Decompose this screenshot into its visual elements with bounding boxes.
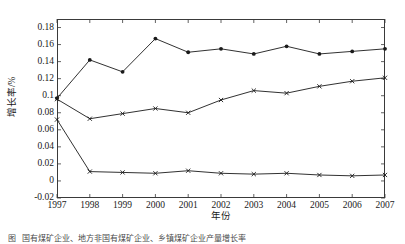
x-tick-label: 2002 — [212, 201, 231, 211]
x-tick-label: 2007 — [376, 201, 395, 211]
x-tick-label: 1999 — [113, 201, 132, 211]
data-point-marker — [252, 52, 256, 56]
data-series — [55, 117, 387, 177]
data-point-marker — [55, 117, 59, 121]
caption-text: 国有煤矿企业、地方非国有煤矿企业、乡镇煤矿企业产量增长率 — [22, 234, 246, 243]
data-point-marker — [383, 47, 387, 51]
x-tick-label: 2001 — [179, 201, 198, 211]
x-tick-label: 2003 — [244, 201, 263, 211]
data-point-marker — [285, 44, 289, 48]
data-series — [55, 37, 387, 100]
x-axis-title: 年份 — [57, 212, 385, 222]
axis-tick-marks — [57, 19, 385, 198]
caption-label: 图 — [8, 234, 16, 243]
series-line — [57, 120, 385, 176]
series-line — [57, 78, 385, 119]
data-point-marker — [219, 47, 223, 51]
x-tick-label: 1997 — [48, 201, 67, 211]
data-point-marker — [121, 70, 125, 74]
figure-container: 0.180.160.140.120.10.080.060.040.020-0.0… — [0, 0, 405, 244]
x-tick-label: 1998 — [80, 201, 99, 211]
x-tick-label: 2005 — [310, 201, 329, 211]
data-point-marker — [88, 58, 92, 62]
figure-caption: 图国有煤矿企业、地方非国有煤矿企业、乡镇煤矿企业产量增长率 — [8, 233, 400, 244]
data-point-marker — [154, 37, 158, 41]
x-tick-label: 2004 — [277, 201, 296, 211]
data-point-marker — [318, 52, 322, 56]
data-series-layer — [55, 37, 387, 178]
data-point-marker — [186, 50, 190, 54]
x-tick-label: 2006 — [343, 201, 362, 211]
x-tick-label: 2000 — [146, 201, 165, 211]
data-point-marker — [350, 49, 354, 53]
data-series — [55, 76, 387, 121]
